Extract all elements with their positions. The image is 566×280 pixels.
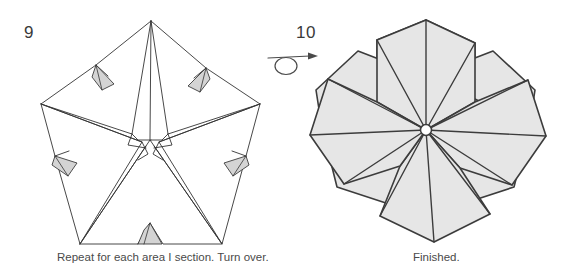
center-hub-circle	[421, 125, 432, 136]
figure-step-10-five-petal-flower	[300, 18, 550, 250]
pinwheel-panels	[41, 21, 260, 244]
caption-step-10: Finished.	[413, 252, 460, 264]
caption-step-9: Repeat for each area I section. Turn ove…	[57, 252, 269, 264]
figure-step-9-pinwheel-pentagon	[20, 18, 270, 250]
diagram-page: 9 10	[0, 0, 566, 280]
arrow-loop	[275, 58, 297, 75]
fold-line-top	[150, 21, 151, 140]
